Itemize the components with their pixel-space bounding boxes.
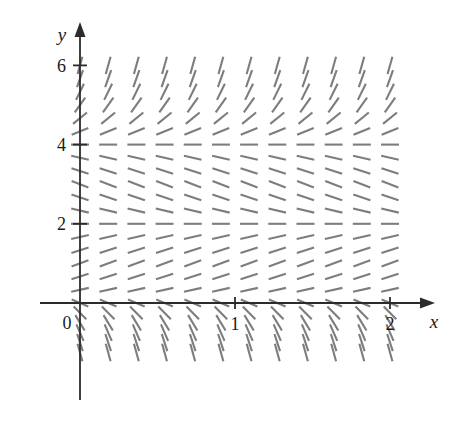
slope-segment xyxy=(270,113,284,124)
slope-segment xyxy=(156,156,174,160)
slope-segment xyxy=(381,195,398,201)
slope-segment xyxy=(184,288,202,292)
slope-segment xyxy=(297,235,315,239)
slope-segment xyxy=(241,260,258,266)
axes-layer xyxy=(40,22,435,400)
slope-segment xyxy=(327,113,341,124)
y-axis-tick-label: 6 xyxy=(57,56,66,76)
slope-segment xyxy=(297,209,315,213)
slope-segment xyxy=(381,168,398,174)
slope-segment xyxy=(240,156,258,160)
x-axis-arrowhead xyxy=(420,298,435,309)
y-axis-label: y xyxy=(56,24,67,45)
slope-segment xyxy=(269,128,286,135)
slope-segment xyxy=(240,288,258,292)
slope-segment xyxy=(353,195,370,201)
y-axis-arrowhead xyxy=(75,22,86,37)
slope-field-plot: 12246xy0 xyxy=(0,0,452,428)
slope-segment xyxy=(212,274,229,279)
slope-segment xyxy=(269,209,287,213)
slope-segment xyxy=(297,128,314,135)
slope-segment xyxy=(156,235,174,239)
slope-segment xyxy=(353,156,371,160)
slope-segment xyxy=(156,209,174,213)
slope-segment xyxy=(213,181,230,187)
slope-segment xyxy=(381,288,399,292)
slope-segment xyxy=(325,181,342,187)
slope-segment xyxy=(212,247,229,252)
slope-segment xyxy=(158,113,172,124)
slope-segment xyxy=(184,260,201,266)
slope-segment xyxy=(355,113,369,124)
slope-segment xyxy=(269,195,286,201)
slope-segment xyxy=(212,288,230,292)
slope-segment xyxy=(353,128,370,135)
slope-segment xyxy=(269,260,286,266)
slope-segment xyxy=(269,274,286,279)
slope-segment xyxy=(325,288,343,292)
slope-segment xyxy=(184,235,202,239)
slope-segment xyxy=(184,274,201,279)
slope-segment xyxy=(353,209,371,213)
slope-segment xyxy=(382,260,399,266)
slope-segment xyxy=(212,235,230,239)
slope-segment xyxy=(99,209,117,213)
slope-segment xyxy=(325,209,343,213)
slope-segment xyxy=(156,181,173,187)
y-axis-tick-label: 2 xyxy=(57,214,66,234)
slope-segment xyxy=(297,260,314,266)
slope-segment xyxy=(381,209,399,213)
slope-segment xyxy=(128,209,146,213)
slope-segment xyxy=(383,113,397,124)
slope-segment xyxy=(269,181,286,187)
slope-segment xyxy=(128,260,145,266)
slope-segment xyxy=(381,274,398,279)
slope-segment xyxy=(241,274,258,279)
slope-segment xyxy=(240,235,258,239)
slope-segment xyxy=(268,288,286,292)
slope-segment xyxy=(297,156,315,160)
y-axis-tick-label: 4 xyxy=(57,135,66,155)
slope-segment xyxy=(325,260,342,266)
slope-segment xyxy=(297,274,314,279)
slope-segment xyxy=(100,181,117,187)
slope-segment xyxy=(213,128,230,135)
slope-segment xyxy=(100,128,117,135)
slope-segment xyxy=(184,156,202,160)
slope-segment xyxy=(212,156,230,160)
slope-segment xyxy=(129,113,143,124)
slope-segment xyxy=(212,209,230,213)
slope-segment xyxy=(186,113,200,124)
slope-segment xyxy=(325,235,343,239)
slope-segment xyxy=(353,181,370,187)
slope-segment xyxy=(128,181,145,187)
slope-segment xyxy=(128,274,145,279)
slope-segment xyxy=(269,156,287,160)
slope-segment xyxy=(101,113,115,124)
slope-segment xyxy=(381,247,398,252)
slope-segment xyxy=(128,195,145,201)
slope-segment xyxy=(353,288,371,292)
x-axis-tick-label: 2 xyxy=(386,314,395,334)
slope-segment xyxy=(353,260,370,266)
slope-segment xyxy=(297,247,314,252)
slope-segment xyxy=(128,128,145,135)
x-axis-label: x xyxy=(429,311,439,332)
slope-segment xyxy=(382,181,399,187)
slope-segment xyxy=(241,168,258,174)
slope-segment xyxy=(100,168,117,174)
slope-segment xyxy=(268,235,286,239)
slope-segment xyxy=(100,274,117,279)
slope-segment xyxy=(99,235,117,239)
slope-segment xyxy=(128,247,145,252)
slope-segment xyxy=(156,247,173,252)
slope-segment xyxy=(128,156,146,160)
slope-segment xyxy=(382,128,399,135)
slope-segment xyxy=(184,247,201,252)
slope-segment xyxy=(297,288,315,292)
slope-segment xyxy=(184,128,201,135)
slope-segment xyxy=(214,113,228,124)
slope-segment xyxy=(353,168,370,174)
slope-segment xyxy=(156,168,173,174)
slope-segment xyxy=(353,235,371,239)
